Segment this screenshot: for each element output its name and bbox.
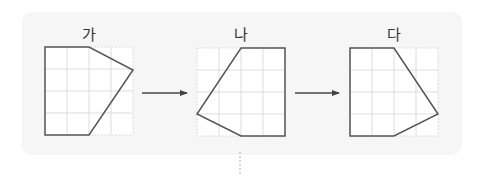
figure-1 xyxy=(45,47,133,135)
figure-3 xyxy=(350,48,438,136)
figure-2 xyxy=(197,48,285,136)
diagram-canvas xyxy=(0,0,482,176)
